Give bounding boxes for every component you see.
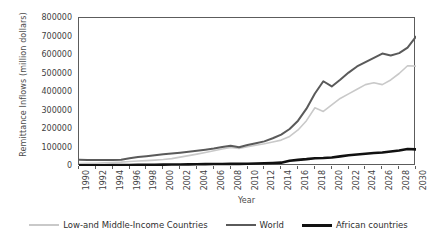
y-tick-label: 500000 <box>24 68 72 77</box>
x-tick-mark <box>78 166 79 169</box>
x-tick-mark <box>196 166 197 169</box>
x-tick-label: 1992 <box>99 170 108 190</box>
legend-label: African countries <box>336 220 408 230</box>
x-tick-mark <box>112 166 113 169</box>
remittance-inflows-line-chart: Remittance Inflows (million dollars) 010… <box>0 0 437 238</box>
plot-area <box>78 17 415 165</box>
series-line <box>79 66 416 164</box>
y-tick-label: 200000 <box>24 124 72 133</box>
x-tick-label: 1996 <box>133 170 142 190</box>
legend-line-swatch <box>226 224 256 226</box>
series-line <box>79 149 416 165</box>
x-tick-label: 2016 <box>301 170 310 190</box>
x-tick-mark <box>348 166 349 169</box>
x-tick-mark <box>381 166 382 169</box>
x-tick-label: 2004 <box>200 170 209 190</box>
x-tick-mark <box>314 166 315 169</box>
y-tick-label: 800000 <box>24 13 72 22</box>
x-tick-mark <box>331 166 332 169</box>
x-tick-label: 2002 <box>183 170 192 190</box>
legend-line-swatch <box>29 224 59 226</box>
legend-entry[interactable]: Low-and Middle-Income Countries <box>29 220 207 230</box>
series-line <box>79 37 416 160</box>
x-tick-mark <box>297 166 298 169</box>
y-tick-label: 0 <box>24 161 72 170</box>
x-tick-label: 2008 <box>234 170 243 190</box>
x-axis-title: Year <box>78 196 415 205</box>
x-tick-label: 2014 <box>284 170 293 190</box>
x-tick-mark <box>263 166 264 169</box>
x-tick-label: 2012 <box>267 170 276 190</box>
x-tick-mark <box>95 166 96 169</box>
x-tick-mark <box>230 166 231 169</box>
x-tick-label: 2010 <box>251 170 260 190</box>
y-axis-tick-labels: 0100000200000300000400000500000600000700… <box>24 17 72 165</box>
plot-series-svg <box>79 18 416 166</box>
x-tick-mark <box>415 166 416 169</box>
x-tick-mark <box>179 166 180 169</box>
x-tick-label: 2020 <box>335 170 344 190</box>
x-tick-mark <box>364 166 365 169</box>
y-tick-label: 300000 <box>24 105 72 114</box>
legend-entry[interactable]: World <box>226 220 284 230</box>
x-tick-label: 2026 <box>385 170 394 190</box>
x-tick-label: 2030 <box>419 170 428 190</box>
x-axis-tick-labels: 1990199219941996199820002002200420062008… <box>78 166 415 198</box>
x-tick-label: 2024 <box>368 170 377 190</box>
x-tick-label: 2000 <box>166 170 175 190</box>
legend-label: Low-and Middle-Income Countries <box>63 220 207 230</box>
x-tick-label: 2028 <box>402 170 411 190</box>
x-tick-mark <box>398 166 399 169</box>
legend-label: World <box>260 220 284 230</box>
x-tick-mark <box>280 166 281 169</box>
legend-entry[interactable]: African countries <box>302 220 408 230</box>
x-tick-mark <box>129 166 130 169</box>
x-tick-label: 1998 <box>149 170 158 190</box>
y-tick-label: 600000 <box>24 50 72 59</box>
y-tick-label: 100000 <box>24 142 72 151</box>
x-tick-mark <box>162 166 163 169</box>
x-tick-label: 1990 <box>82 170 91 190</box>
chart-legend: Low-and Middle-Income CountriesWorldAfri… <box>0 216 437 234</box>
x-tick-label: 2006 <box>217 170 226 190</box>
x-tick-mark <box>145 166 146 169</box>
x-tick-mark <box>213 166 214 169</box>
y-tick-label: 700000 <box>24 31 72 40</box>
y-tick-label: 400000 <box>24 87 72 96</box>
x-tick-label: 2018 <box>318 170 327 190</box>
legend-line-swatch <box>302 224 332 227</box>
x-tick-label: 2022 <box>352 170 361 190</box>
x-tick-mark <box>247 166 248 169</box>
x-tick-label: 1994 <box>116 170 125 190</box>
